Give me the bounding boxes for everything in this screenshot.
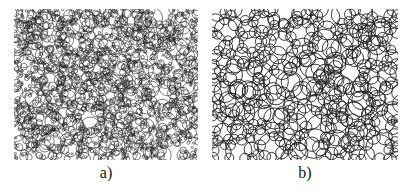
circle-packing-plot-b — [212, 9, 398, 160]
figure-panel-b — [212, 9, 398, 160]
panel-caption-a: a) — [14, 161, 198, 185]
circle-packing-plot-a — [14, 9, 198, 160]
figure-root: a) b) — [0, 0, 412, 192]
figure-panel-a — [14, 9, 198, 160]
panel-caption-b: b) — [212, 161, 398, 185]
